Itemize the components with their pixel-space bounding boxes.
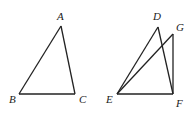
label-b: B [9, 93, 16, 105]
edge-de [117, 27, 158, 94]
label-d: D [152, 10, 161, 22]
label-g: G [176, 21, 184, 33]
triangle-abc: A B C [9, 10, 87, 105]
edge-eg [117, 34, 173, 94]
label-e: E [105, 93, 113, 105]
figure-defg: D G E F [105, 10, 184, 109]
label-c: C [79, 93, 87, 105]
edge-ca [61, 26, 75, 94]
label-f: F [175, 97, 183, 109]
edge-ab [19, 26, 61, 94]
geometry-diagram: A B C D G E F [0, 0, 190, 114]
label-a: A [56, 10, 64, 22]
